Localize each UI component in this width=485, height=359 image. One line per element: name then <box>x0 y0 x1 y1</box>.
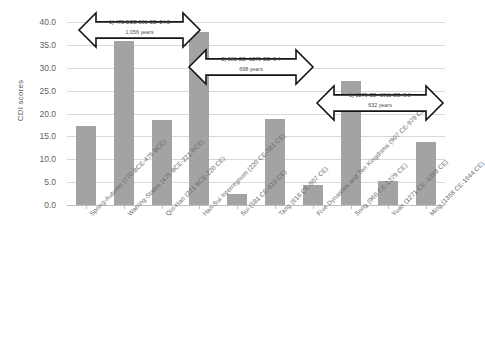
x-axis-tick <box>162 205 163 209</box>
x-axis-tick <box>351 205 352 209</box>
y-axis-tick-label: 25.0 <box>16 86 56 96</box>
bar <box>265 119 285 205</box>
bar <box>227 194 247 205</box>
annotation-arrow-3: 3) 1279 CE- 1911 CE: 5.3632 years <box>317 86 443 120</box>
x-axis-ticks <box>67 205 445 210</box>
y-axis-tick-label: 10.0 <box>16 154 56 164</box>
bar <box>76 126 96 205</box>
annotation-label-duration: 1,056 years <box>79 29 200 35</box>
bar <box>416 142 436 205</box>
x-axis-tick <box>124 205 125 209</box>
bar <box>303 185 323 205</box>
annotation-arrow-2: 2) 581 CE- 1279 CE: 9.4698 years <box>189 50 313 84</box>
y-axis-tick-label: 40.0 <box>16 17 56 27</box>
x-axis-tick <box>86 205 87 209</box>
annotation-label-duration: 698 years <box>189 66 313 72</box>
y-axis-tick-label: 0.0 <box>16 200 56 210</box>
annotation-label-primary: 3) 1279 CE- 1911 CE: 5.3 <box>317 92 443 98</box>
annotation-arrow-1: 1) 475 BCE-581 CE: 24.51,056 years <box>79 13 200 47</box>
y-axis-tick-label: 30.0 <box>16 63 56 73</box>
annotation-label-primary: 1) 475 BCE-581 CE: 24.5 <box>79 19 200 25</box>
annotation-label-primary: 2) 581 CE- 1279 CE: 9.4 <box>189 56 313 62</box>
annotation-label-duration: 632 years <box>317 102 443 108</box>
x-axis-tick <box>275 205 276 209</box>
bar <box>114 41 134 205</box>
x-axis-tick <box>237 205 238 209</box>
y-axis-tick-label: 20.0 <box>16 109 56 119</box>
x-axis-tick <box>313 205 314 209</box>
y-axis-tick-label: 35.0 <box>16 40 56 50</box>
y-axis-tick-label: 5.0 <box>16 177 56 187</box>
y-axis-tick-label: 15.0 <box>16 131 56 141</box>
bar <box>152 120 172 205</box>
bar <box>378 181 398 205</box>
x-axis-tick <box>388 205 389 209</box>
x-axis-tick <box>426 205 427 209</box>
x-axis-tick <box>199 205 200 209</box>
